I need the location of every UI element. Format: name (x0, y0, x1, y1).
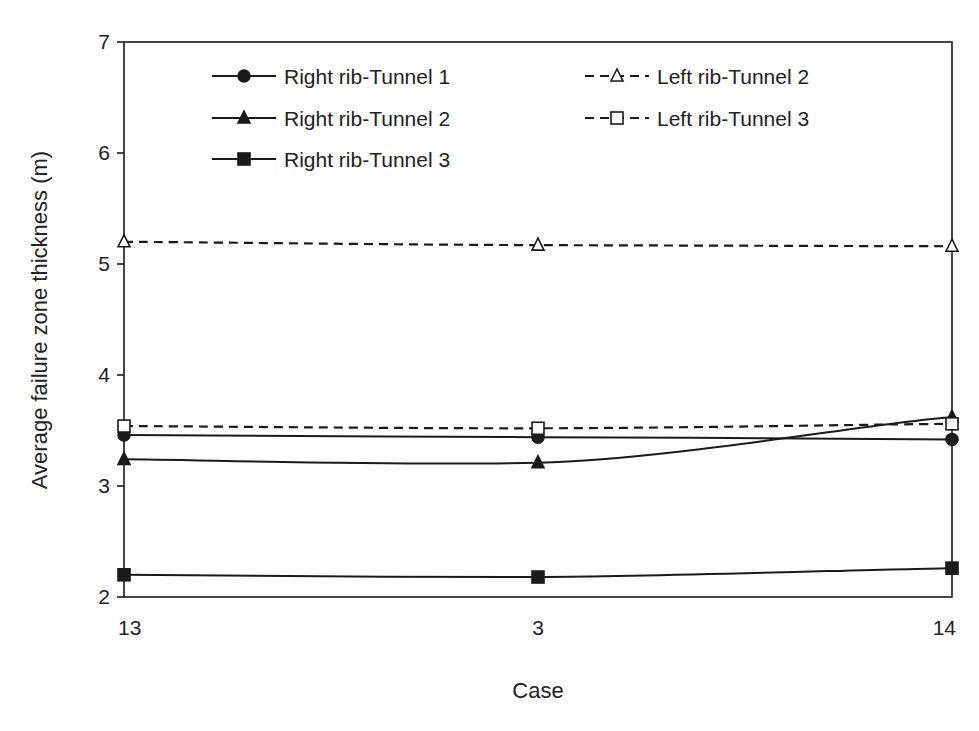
legend: Right rib-Tunnel 1Right rib-Tunnel 2Righ… (212, 65, 809, 171)
x-axis-title: Case (512, 678, 563, 703)
legend-label: Left rib-Tunnel 3 (657, 107, 809, 130)
legend-item: Right rib-Tunnel 2 (212, 107, 450, 130)
x-tick-label: 14 (933, 616, 957, 639)
y-tick-label: 7 (98, 30, 110, 53)
square-marker (118, 420, 130, 432)
triangle-marker (946, 239, 958, 251)
square-marker (611, 112, 623, 124)
triangle-marker (118, 452, 130, 464)
y-tick-label: 4 (98, 363, 110, 386)
y-axis-title: Average failure zone thickness (m) (27, 151, 52, 489)
series-right-rib-tunnel-3 (118, 562, 958, 583)
square-marker (118, 569, 130, 581)
circle-marker (238, 70, 250, 82)
plot-axes: 23456713314 (98, 30, 956, 639)
line-chart: 23456713314 Right rib-Tunnel 1Right rib-… (0, 0, 979, 731)
legend-label: Right rib-Tunnel 2 (284, 107, 450, 130)
plot-series (118, 235, 958, 583)
legend-label: Right rib-Tunnel 1 (284, 65, 450, 88)
square-marker (238, 153, 250, 165)
square-marker (532, 571, 544, 583)
y-tick-label: 2 (98, 585, 110, 608)
x-tick-label: 13 (118, 616, 141, 639)
y-tick-label: 3 (98, 474, 110, 497)
plot-frame (124, 42, 952, 597)
legend-item: Right rib-Tunnel 3 (212, 148, 450, 171)
legend-label: Right rib-Tunnel 3 (284, 148, 450, 171)
square-marker (532, 422, 544, 434)
series-left-rib-tunnel-2 (118, 235, 958, 251)
y-tick-label: 5 (98, 252, 110, 275)
circle-marker (946, 433, 958, 445)
x-tick-label: 3 (532, 616, 544, 639)
legend-label: Left rib-Tunnel 2 (657, 65, 809, 88)
legend-item: Right rib-Tunnel 1 (212, 65, 450, 88)
y-tick-label: 6 (98, 141, 110, 164)
square-marker (946, 562, 958, 574)
square-marker (946, 418, 958, 430)
legend-item: Left rib-Tunnel 3 (585, 107, 809, 130)
legend-item: Left rib-Tunnel 2 (585, 65, 809, 88)
